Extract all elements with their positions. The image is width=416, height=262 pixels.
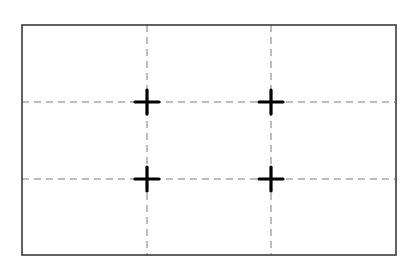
rule-of-thirds-diagram <box>0 0 416 262</box>
diagram-background <box>0 0 416 262</box>
